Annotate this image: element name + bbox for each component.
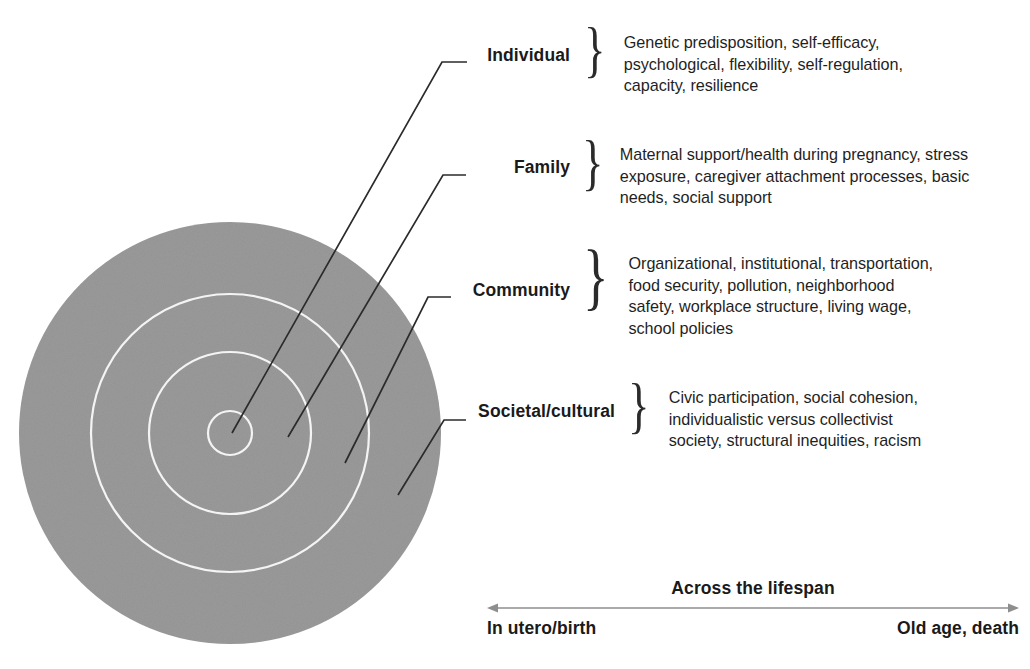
desc-line: psychological, flexibility, self-regulat… bbox=[624, 54, 903, 76]
desc-line: exposure, caregiver attachment processes… bbox=[620, 166, 969, 188]
desc-line: Organizational, institutional, transport… bbox=[629, 253, 934, 275]
level-description-individual: Genetic predisposition, self-efficacy, p… bbox=[624, 32, 903, 97]
level-row-individual: Individual } Genetic predisposition, sel… bbox=[470, 31, 903, 97]
lifespan-axis: Across the lifespan In utero/birth Old a… bbox=[487, 578, 1019, 639]
lifespan-title: Across the lifespan bbox=[487, 578, 1019, 599]
level-label-family: Family bbox=[470, 159, 570, 177]
desc-line: food security, pollution, neighborhood bbox=[629, 275, 934, 297]
brace-societal-cultural: } bbox=[628, 381, 649, 429]
desc-line: Civic participation, social cohesion, bbox=[669, 387, 921, 409]
level-description-societal-cultural: Civic participation, social cohesion, in… bbox=[669, 387, 921, 452]
lifespan-double-arrow-icon bbox=[487, 601, 1019, 615]
brace-community: } bbox=[583, 248, 609, 306]
desc-line: safety, workplace structure, living wage… bbox=[629, 296, 934, 318]
brace-family: } bbox=[582, 138, 603, 186]
level-description-family: Maternal support/health during pregnancy… bbox=[620, 144, 969, 209]
level-description-community: Organizational, institutional, transport… bbox=[629, 253, 934, 339]
level-row-societal-cultural: Societal/cultural } Civic participation,… bbox=[455, 385, 921, 452]
desc-line: school policies bbox=[629, 318, 934, 340]
level-label-individual: Individual bbox=[470, 47, 570, 65]
desc-line: capacity, resilience bbox=[624, 75, 903, 97]
level-row-community: Community } Organizational, institutiona… bbox=[455, 251, 933, 339]
desc-line: individualistic versus collectivist bbox=[669, 409, 921, 431]
desc-line: society, structural inequities, racism bbox=[669, 430, 921, 452]
desc-line: needs, social support bbox=[620, 187, 969, 209]
lifespan-start-label: In utero/birth bbox=[487, 618, 596, 639]
lifespan-endpoint-labels: In utero/birth Old age, death bbox=[487, 618, 1019, 639]
desc-line: Genetic predisposition, self-efficacy, bbox=[624, 32, 903, 54]
level-label-community: Community bbox=[455, 282, 570, 300]
desc-line: Maternal support/health during pregnancy… bbox=[620, 144, 969, 166]
brace-individual: } bbox=[584, 25, 605, 73]
level-label-societal-cultural: Societal/cultural bbox=[455, 403, 615, 421]
level-row-family: Family } Maternal support/health during … bbox=[470, 142, 969, 209]
diagram-canvas: Individual } Genetic predisposition, sel… bbox=[0, 0, 1030, 669]
lifespan-end-label: Old age, death bbox=[897, 618, 1019, 639]
